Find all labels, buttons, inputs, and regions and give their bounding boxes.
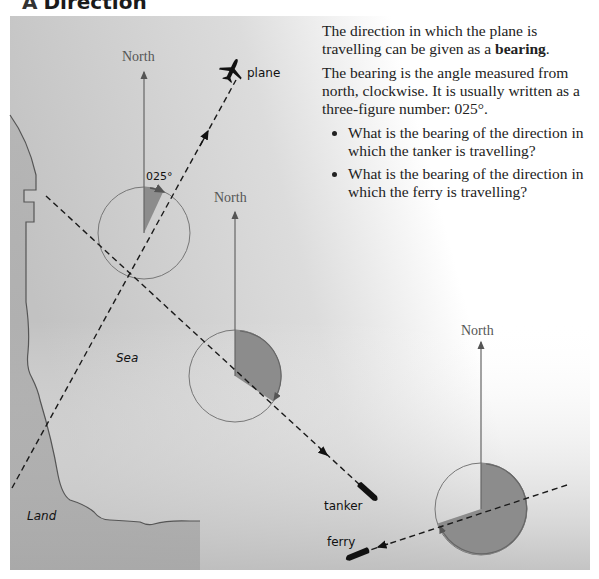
- section-title: Direction: [43, 0, 146, 14]
- section-letter: A: [22, 0, 37, 14]
- sea-label: Sea: [116, 351, 138, 365]
- question-tanker: What is the bearing of the direction in …: [348, 124, 597, 160]
- land-label: Land: [27, 509, 57, 523]
- north-label-tanker: North: [214, 190, 247, 205]
- section-heading: ADirection: [22, 0, 147, 14]
- north-label-ferry: North: [461, 323, 494, 338]
- bearing-term: bearing: [495, 40, 546, 57]
- ferry-label: ferry: [327, 535, 355, 549]
- plane-label: plane: [247, 66, 280, 80]
- angle-label-plane: 025°: [146, 170, 173, 183]
- question-ferry: What is the bearing of the direction in …: [348, 165, 597, 201]
- tanker-label: tanker: [324, 499, 363, 513]
- explanation-text: The direction in which the plane is trav…: [322, 22, 597, 206]
- question-list: What is the bearing of the direction in …: [322, 124, 597, 201]
- paragraph-bearing-definition: The bearing is the angle measured from n…: [322, 64, 597, 118]
- north-label-plane: North: [122, 49, 155, 64]
- paragraph-bearing-intro: The direction in which the plane is trav…: [322, 22, 597, 58]
